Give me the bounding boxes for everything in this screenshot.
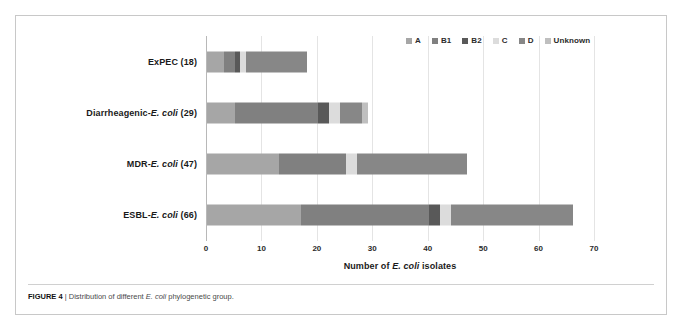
bar-segment-c[interactable] <box>329 102 340 123</box>
stacked-bar[interactable] <box>207 102 368 123</box>
figure-panel: AB1B2CDUnknown ExPEC (18)Diarrheagenic-E… <box>15 15 667 315</box>
category-label-suffix: (29) <box>178 108 197 118</box>
category-label-prefix: MDR- <box>127 159 151 169</box>
bar-segment-b1[interactable] <box>235 102 318 123</box>
bar-segment-d[interactable] <box>246 51 307 72</box>
x-axis-tick-label: 20 <box>312 244 321 253</box>
category-label-suffix: (18) <box>178 57 197 67</box>
category-label-species: E. coli <box>151 108 178 118</box>
bar-segment-a[interactable] <box>207 154 279 175</box>
plot-region: ExPEC (18)Diarrheagenic-E. coli (29)MDR-… <box>206 36 594 241</box>
x-axis-tick-label: 10 <box>257 244 266 253</box>
chart-area: AB1B2CDUnknown ExPEC (18)Diarrheagenic-E… <box>16 16 666 284</box>
caption-italic-species: E. coli <box>146 292 166 301</box>
caption-figure-number: FIGURE 4 <box>28 292 63 301</box>
category-label-suffix: (47) <box>178 159 197 169</box>
stacked-bar[interactable] <box>207 205 573 226</box>
category-label: Diarrheagenic-E. coli (29) <box>86 108 206 118</box>
x-axis-ticks: 010203040506070 <box>206 244 594 258</box>
bar-segment-b2[interactable] <box>429 205 440 226</box>
bar-segment-a[interactable] <box>207 205 301 226</box>
category-label-species: E. coli <box>151 210 178 220</box>
bar-segment-unknown[interactable] <box>362 102 368 123</box>
bar-segment-d[interactable] <box>451 205 573 226</box>
stacked-bar[interactable] <box>207 51 307 72</box>
gridline <box>594 36 595 241</box>
x-axis-tick-label: 0 <box>204 244 208 253</box>
category-label-species: E. coli <box>151 159 178 169</box>
bar-segment-a[interactable] <box>207 102 235 123</box>
x-axis-title: Number of E. coli isolates <box>206 261 594 271</box>
x-axis-tick-label: 30 <box>368 244 377 253</box>
bar-segment-b1[interactable] <box>224 51 235 72</box>
figure-caption: FIGURE 4 | Distribution of different E. … <box>28 292 654 302</box>
bar-rows: ExPEC (18)Diarrheagenic-E. coli (29)MDR-… <box>206 36 594 241</box>
bar-row: Diarrheagenic-E. coli (29) <box>206 87 594 138</box>
bar-segment-d[interactable] <box>340 102 362 123</box>
bar-row: ESBL-E. coli (66) <box>206 190 594 241</box>
bar-row: ExPEC (18) <box>206 36 594 87</box>
x-axis-title-before: Number of <box>344 261 390 271</box>
category-label: ExPEC (18) <box>148 57 206 67</box>
x-axis-title-italic: E. coli <box>392 261 419 271</box>
category-label-prefix: Diarrheagenic- <box>86 108 150 118</box>
bar-segment-b2[interactable] <box>318 102 329 123</box>
x-axis-tick-label: 50 <box>479 244 488 253</box>
category-label: ESBL-E. coli (66) <box>123 210 206 220</box>
bar-row: MDR-E. coli (47) <box>206 139 594 190</box>
stacked-bar[interactable] <box>207 154 467 175</box>
x-axis-tick-label: 40 <box>423 244 432 253</box>
category-label-prefix: ExPEC <box>148 57 178 67</box>
bar-segment-d[interactable] <box>357 154 468 175</box>
bar-segment-b1[interactable] <box>279 154 346 175</box>
category-label-suffix: (66) <box>178 210 197 220</box>
caption-text-before: Distribution of different <box>69 292 144 301</box>
caption-separator: | <box>65 292 67 301</box>
x-axis-tick-label: 70 <box>590 244 599 253</box>
bar-segment-a[interactable] <box>207 51 224 72</box>
bar-segment-b1[interactable] <box>301 205 428 226</box>
x-axis-title-after: isolates <box>422 261 456 271</box>
caption-text-after: phylogenetic group. <box>168 292 233 301</box>
category-label-prefix: ESBL- <box>123 210 151 220</box>
caption-divider <box>28 284 654 285</box>
bar-segment-c[interactable] <box>440 205 451 226</box>
x-axis-tick-label: 60 <box>534 244 543 253</box>
bar-segment-c[interactable] <box>346 154 357 175</box>
category-label: MDR-E. coli (47) <box>127 159 206 169</box>
